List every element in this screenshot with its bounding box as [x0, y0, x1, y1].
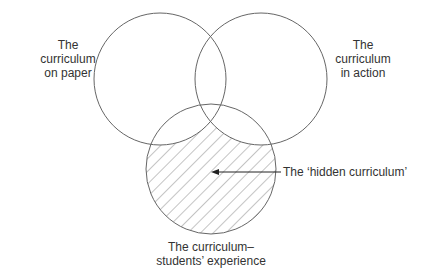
label-curriculum-on-paper: The curriculum on paper	[30, 38, 106, 80]
label-hidden-curriculum: The ‘hidden curriculum’	[283, 165, 407, 179]
hidden-curriculum-hatch	[146, 104, 276, 234]
label-curriculum-in-action: The curriculum in action	[325, 38, 401, 80]
label-students-experience: The curriculum– students’ experience	[131, 240, 291, 268]
